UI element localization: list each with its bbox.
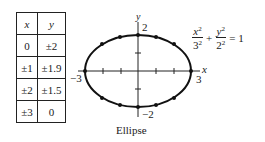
label-x-3: 3 (196, 73, 202, 85)
ellipse-equation: x2 32 + y2 22 = 1 (192, 24, 247, 51)
fraction-y: y2 22 (215, 24, 226, 51)
label-x-neg3: −3 (70, 72, 82, 84)
x-axis-label: x (202, 63, 207, 75)
label-y-2: 2 (142, 21, 148, 33)
y-axis-label: y (136, 11, 140, 22)
caption: Ellipse (116, 124, 147, 136)
fraction-x: x2 32 (192, 24, 203, 51)
label-y-neg2: −2 (142, 108, 154, 120)
ellipse-graph (0, 0, 265, 142)
